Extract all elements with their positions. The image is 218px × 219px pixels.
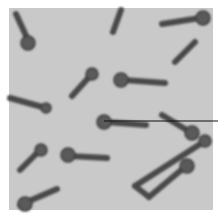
bacterium-rod bbox=[106, 122, 146, 125]
terminal-spore bbox=[35, 144, 47, 156]
terminal-spore bbox=[21, 36, 35, 50]
terminal-spore bbox=[114, 73, 128, 87]
terminal-spore bbox=[86, 68, 98, 80]
bacterium-rod bbox=[72, 76, 90, 96]
bacterium-rod bbox=[124, 80, 165, 83]
terminal-spore bbox=[18, 197, 32, 211]
terminal-spore bbox=[180, 159, 194, 173]
terminal-spore bbox=[185, 126, 199, 140]
bacteria-micrograph bbox=[0, 0, 218, 219]
terminal-spore bbox=[97, 115, 111, 129]
terminal-spore bbox=[199, 135, 211, 147]
bacterium-rod bbox=[175, 42, 195, 62]
bacterium-rod bbox=[113, 10, 121, 32]
terminal-spore bbox=[196, 11, 210, 25]
terminal-spore bbox=[41, 103, 51, 113]
terminal-spore bbox=[61, 148, 75, 162]
bacteria-cells bbox=[10, 10, 211, 211]
bacterium-rod bbox=[162, 18, 200, 24]
